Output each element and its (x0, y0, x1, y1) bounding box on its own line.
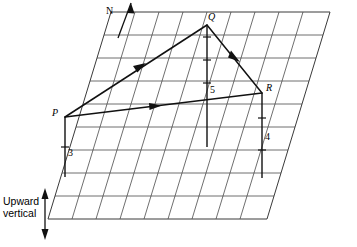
vertex-label-q: Q (208, 11, 216, 22)
grid-oblique-lines (48, 12, 330, 219)
height-label-p: 3 (68, 147, 73, 158)
height-label-r: 4 (265, 131, 270, 142)
edge-pr (65, 93, 262, 117)
vertex-label-p: P (51, 107, 58, 118)
upward-arrow-head-top (42, 188, 49, 199)
upward-vertical-label-line2: vertical (3, 207, 36, 219)
triangle-pqr (65, 25, 262, 117)
upward-vertical-label-line1: Upward (3, 195, 39, 207)
upward-arrow-head-bottom (42, 229, 49, 240)
grid-line-v3 (120, 12, 183, 219)
double-headed-vertical-arrow-icon (42, 188, 49, 240)
grid-line-v8 (240, 12, 303, 219)
grid-plane (48, 12, 330, 219)
north-label: N (106, 5, 113, 16)
edge-pq (65, 25, 207, 117)
grid-horizontal-lines (48, 12, 330, 219)
vertex-label-r: R (265, 82, 272, 93)
grid-line-v6 (192, 12, 255, 219)
grid-line-v4 (144, 12, 207, 219)
diagram-container: N P Q R 3 5 4 U (0, 0, 357, 247)
height-label-q: 5 (210, 84, 215, 95)
grid-line-v2 (96, 12, 159, 219)
grid-line-v7 (216, 12, 279, 219)
geometry-diagram: N P Q R 3 5 4 U (0, 0, 357, 247)
grid-line-v9 (267, 12, 330, 219)
